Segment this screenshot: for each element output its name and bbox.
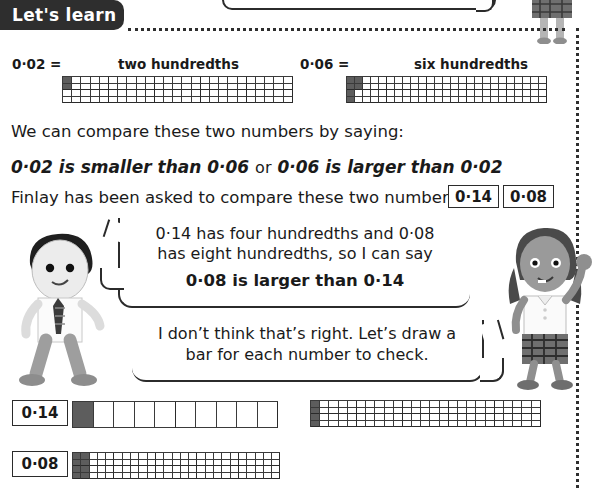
example-0-number: 0·02 = bbox=[12, 56, 61, 72]
grid-cell bbox=[284, 97, 293, 104]
grid-cell bbox=[427, 90, 435, 97]
grid-cell bbox=[491, 97, 499, 104]
grid-cell bbox=[523, 90, 531, 97]
grid-cell bbox=[228, 84, 237, 91]
grid-cell bbox=[387, 90, 395, 97]
grid-cell bbox=[523, 84, 531, 91]
grid-cell bbox=[73, 466, 81, 473]
grid-cell bbox=[476, 421, 485, 428]
grid-cell bbox=[114, 453, 122, 460]
grid-cell bbox=[419, 90, 427, 97]
grid-cell bbox=[531, 77, 539, 84]
grid-cell bbox=[459, 97, 467, 104]
grid-cell bbox=[100, 90, 109, 97]
statement-or: or bbox=[255, 158, 271, 177]
grid-cell bbox=[272, 466, 280, 473]
grid-cell bbox=[363, 97, 371, 104]
grid-cell bbox=[206, 460, 214, 467]
grid-cell bbox=[182, 90, 191, 97]
grid-cell bbox=[256, 473, 264, 480]
grid-cell bbox=[91, 90, 100, 97]
grid-cell bbox=[539, 77, 547, 84]
grid-cell bbox=[155, 97, 164, 104]
grid-cell bbox=[156, 473, 164, 480]
grid-cell bbox=[430, 401, 439, 408]
grid-cell bbox=[443, 84, 451, 91]
grid-cell bbox=[114, 460, 122, 467]
grid-cell bbox=[363, 77, 371, 84]
grid-cell bbox=[201, 90, 210, 97]
grid-cell bbox=[440, 408, 449, 415]
grid-cell bbox=[491, 90, 499, 97]
grid-cell bbox=[451, 97, 459, 104]
grid-cell bbox=[81, 90, 90, 97]
grid-cell bbox=[515, 90, 523, 97]
grid-cell bbox=[206, 473, 214, 480]
grid-cell bbox=[357, 414, 366, 421]
grid-cell bbox=[459, 90, 467, 97]
grid-cell bbox=[214, 473, 222, 480]
grid-cell bbox=[532, 401, 541, 408]
grid-cell bbox=[239, 453, 247, 460]
grid-cell bbox=[274, 97, 283, 104]
grid-cell bbox=[81, 77, 90, 84]
grid-cell bbox=[430, 414, 439, 421]
grid-cell bbox=[366, 408, 375, 415]
grid-cell bbox=[385, 408, 394, 415]
grid-cell bbox=[421, 401, 430, 408]
grid-cell bbox=[513, 414, 522, 421]
grid-cell bbox=[109, 97, 118, 104]
grid-cell bbox=[192, 97, 201, 104]
paragraph-compare: We can compare these two numbers by sayi… bbox=[11, 122, 404, 141]
grid-cell bbox=[109, 77, 118, 84]
cutoff-speech-bubble-tail bbox=[476, 0, 494, 12]
grid-cell bbox=[274, 90, 283, 97]
grid-cell bbox=[339, 401, 348, 408]
grid-cell bbox=[81, 460, 89, 467]
grid-cell bbox=[72, 97, 81, 104]
grid-cell bbox=[247, 77, 256, 84]
grid-cell bbox=[394, 421, 403, 428]
grid-cell bbox=[237, 402, 258, 428]
grid-cell bbox=[239, 460, 247, 467]
grid-cell bbox=[513, 408, 522, 415]
paragraph-finlay-task: Finlay has been asked to compare these t… bbox=[11, 188, 463, 207]
grid-cell bbox=[499, 90, 507, 97]
grid-cell bbox=[339, 414, 348, 421]
grid-cell bbox=[256, 466, 264, 473]
grid-cell bbox=[256, 453, 264, 460]
grid-cell bbox=[173, 84, 182, 91]
grid-cell bbox=[449, 408, 458, 415]
grid-cell bbox=[371, 77, 379, 84]
grid-cell bbox=[284, 90, 293, 97]
grid-cell bbox=[137, 90, 146, 97]
grid-cell bbox=[515, 77, 523, 84]
grid-cell bbox=[443, 97, 451, 104]
grid-cell bbox=[311, 414, 320, 421]
girl-line-2: bar for each number to check. bbox=[186, 345, 429, 364]
grid-cell bbox=[486, 414, 495, 421]
grid-cell bbox=[90, 466, 98, 473]
lets-learn-tab: Let's learn bbox=[0, 0, 124, 30]
grid-cell bbox=[395, 90, 403, 97]
grid-cell bbox=[375, 414, 384, 421]
grid-cell bbox=[222, 453, 230, 460]
grid-cell bbox=[347, 97, 355, 104]
grid-cell bbox=[371, 90, 379, 97]
grid-cell bbox=[504, 414, 513, 421]
grid-cell bbox=[173, 473, 181, 480]
grid-cell bbox=[118, 90, 127, 97]
grid-cell bbox=[467, 77, 475, 84]
grid-cell bbox=[155, 402, 176, 428]
grid-cell bbox=[210, 77, 219, 84]
grid-cell bbox=[357, 401, 366, 408]
grid-cell bbox=[173, 97, 182, 104]
grid-cell bbox=[146, 84, 155, 91]
grid-cell bbox=[483, 97, 491, 104]
grid-cell bbox=[182, 97, 191, 104]
grid-cell bbox=[363, 84, 371, 91]
grid-cell bbox=[118, 77, 127, 84]
grid-cell bbox=[176, 402, 197, 428]
grid-cell bbox=[146, 90, 155, 97]
grid-cell bbox=[475, 90, 483, 97]
